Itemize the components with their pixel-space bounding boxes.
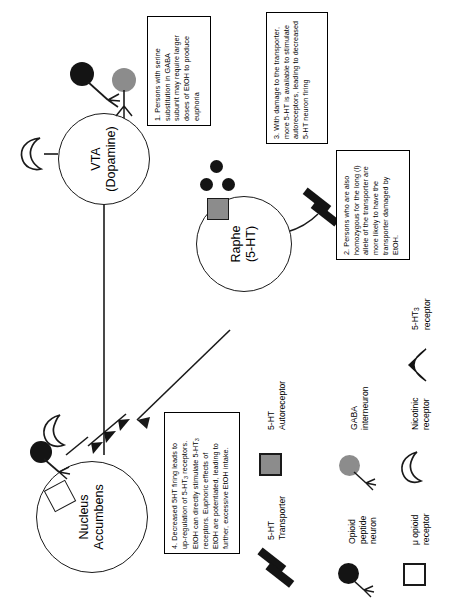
legend-label-opioid-peptide-neuron: Opioid peptide neuron — [347, 464, 379, 544]
serotonin-molecule — [200, 178, 213, 191]
legend-label-5ht-autoreceptor: 5-HT Autoreceptor — [266, 352, 287, 430]
raphe-5ht-autoreceptor[interactable] — [207, 198, 229, 220]
legend-label-5ht3-receptor: 5-HT3 receptor — [410, 260, 433, 330]
opioid-peptide-neuron-nacc-terminal — [42, 457, 76, 487]
legend-label-gaba-interneuron: GABA interneuron — [349, 356, 370, 430]
serotonin-molecule — [222, 178, 235, 191]
node-vta[interactable]: VTA (Dopamine) — [58, 113, 150, 205]
callout-note-3[interactable]: 3. With damage to the transporter, more … — [266, 12, 328, 144]
nacc-nicotinic-receptor-icon — [40, 412, 72, 448]
callout-note-4[interactable]: 4. Decreased 5HT firing leads to up-regu… — [164, 412, 240, 554]
legend-glyph-mu-opioid-receptor — [403, 563, 426, 586]
vta-nicotinic-receptor-icon — [18, 136, 48, 172]
legend-label-5ht-transporter: 5-HT Transporter — [266, 464, 287, 540]
diagram-canvas: VTA (Dopamine) Raphe (5-HT) Nucleus Accu… — [0, 0, 450, 604]
callout-note-2-text: 2. Persons who are also homozygous for t… — [342, 153, 400, 255]
serotonin-molecule — [210, 160, 223, 173]
legend-glyph-5ht-transporter — [256, 550, 298, 596]
callout-note-1-text: 1. Persons with serine substitution in G… — [153, 21, 202, 121]
legend-glyph-opioid-peptide-neuron-terminal — [351, 578, 381, 604]
callout-note-4-text: 4. Decreased 5HT firing leads to up-regu… — [170, 417, 230, 549]
nacc-5ht3-receptors — [82, 406, 154, 466]
gaba-interneuron-vta-terminal — [112, 88, 148, 122]
callout-note-2[interactable]: 2. Persons who are also homozygous for t… — [336, 150, 410, 260]
legend-label-mu-opioid-receptor: μ opioid receptor — [410, 475, 431, 545]
callout-note-3-text: 3. With damage to the transporter, more … — [272, 17, 311, 139]
legend-glyph-5ht3-receptor — [398, 345, 438, 387]
node-vta-label: VTA (Dopamine) — [59, 114, 149, 204]
callout-note-1[interactable]: 1. Persons with serine substitution in G… — [147, 16, 211, 126]
